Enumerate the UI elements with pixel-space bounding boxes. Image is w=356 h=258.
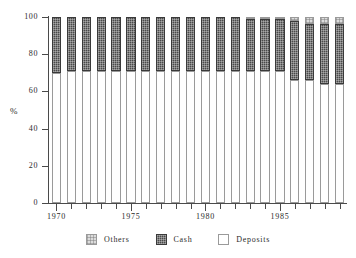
bar-1977 bbox=[156, 17, 165, 203]
segment-cash bbox=[201, 17, 210, 71]
segment-deposits bbox=[52, 73, 61, 203]
x-tick-1973 bbox=[101, 204, 102, 209]
chart-legend: OthersCashDeposits bbox=[0, 230, 356, 248]
segment-deposits bbox=[216, 71, 225, 203]
y-tick-80 bbox=[42, 54, 48, 55]
segment-cash bbox=[246, 19, 255, 71]
segment-cash bbox=[260, 19, 269, 71]
segment-deposits bbox=[82, 71, 91, 203]
y-tick-label-100: 100 bbox=[24, 13, 38, 21]
segment-deposits bbox=[305, 80, 314, 203]
y-tick-40 bbox=[42, 129, 48, 130]
others-swatch bbox=[86, 234, 97, 245]
y-tick-20 bbox=[42, 166, 48, 167]
x-tick-1976 bbox=[146, 204, 147, 209]
bar-1973 bbox=[97, 17, 106, 203]
deposits-swatch bbox=[218, 234, 229, 245]
y-tick-label-20: 20 bbox=[29, 162, 38, 170]
segment-others bbox=[335, 17, 344, 24]
segment-deposits bbox=[141, 71, 150, 203]
bar-1981 bbox=[216, 17, 225, 203]
x-major-tick-1975 bbox=[131, 204, 132, 211]
segment-cash bbox=[52, 17, 61, 73]
y-tick-60 bbox=[42, 91, 48, 92]
bar-1982 bbox=[231, 17, 240, 203]
segment-deposits bbox=[260, 71, 269, 203]
x-tick-1987 bbox=[310, 204, 311, 209]
segment-cash bbox=[335, 24, 344, 84]
x-tick-1981 bbox=[220, 204, 221, 209]
segment-cash bbox=[126, 17, 135, 71]
segment-cash bbox=[275, 19, 284, 71]
bar-1979 bbox=[186, 17, 195, 203]
bar-1980 bbox=[201, 17, 210, 203]
x-tick-1979 bbox=[191, 204, 192, 209]
x-major-tick-1980 bbox=[205, 204, 206, 211]
legend-item-deposits[interactable]: Deposits bbox=[218, 234, 270, 245]
segment-deposits bbox=[186, 71, 195, 203]
y-tick-label-80: 80 bbox=[29, 50, 38, 58]
segment-others bbox=[275, 17, 284, 19]
segment-deposits bbox=[97, 71, 106, 203]
x-tick-1982 bbox=[235, 204, 236, 209]
x-tick-1972 bbox=[86, 204, 87, 209]
segment-others bbox=[320, 17, 329, 24]
segment-cash bbox=[186, 17, 195, 71]
x-major-tick-1985 bbox=[280, 204, 281, 211]
segment-deposits bbox=[201, 71, 210, 203]
segment-deposits bbox=[111, 71, 120, 203]
x-major-tick-1970 bbox=[56, 204, 57, 211]
y-tick-label-60: 60 bbox=[29, 87, 38, 95]
x-tick-1983 bbox=[250, 204, 251, 209]
y-tick-label-0: 0 bbox=[33, 199, 38, 207]
x-tick-label-1975: 1975 bbox=[122, 212, 141, 221]
segment-cash bbox=[97, 17, 106, 71]
y-tick-100 bbox=[42, 17, 48, 18]
plot-area bbox=[49, 17, 347, 203]
x-tick-1984 bbox=[265, 204, 266, 209]
bar-1988 bbox=[320, 17, 329, 203]
x-tick-1978 bbox=[176, 204, 177, 209]
bar-1970 bbox=[52, 17, 61, 203]
segment-others bbox=[305, 17, 314, 24]
segment-cash bbox=[82, 17, 91, 71]
segment-deposits bbox=[156, 71, 165, 203]
segment-others bbox=[260, 17, 269, 19]
legend-item-others[interactable]: Others bbox=[86, 234, 130, 245]
bar-1984 bbox=[260, 17, 269, 203]
x-tick-1971 bbox=[71, 204, 72, 209]
cash-swatch bbox=[156, 234, 167, 245]
segment-cash bbox=[67, 17, 76, 71]
x-tick-1977 bbox=[161, 204, 162, 209]
y-tick-0 bbox=[42, 203, 48, 204]
bar-1976 bbox=[141, 17, 150, 203]
segment-deposits bbox=[246, 71, 255, 203]
segment-deposits bbox=[290, 80, 299, 203]
segment-cash bbox=[156, 17, 165, 71]
bar-1978 bbox=[171, 17, 180, 203]
y-tick-label-40: 40 bbox=[29, 125, 38, 133]
segment-cash bbox=[290, 21, 299, 81]
segment-deposits bbox=[171, 71, 180, 203]
segment-deposits bbox=[67, 71, 76, 203]
bar-1985 bbox=[275, 17, 284, 203]
x-tick-1986 bbox=[295, 204, 296, 209]
segment-deposits bbox=[275, 71, 284, 203]
x-tick-1974 bbox=[116, 204, 117, 209]
legend-item-cash[interactable]: Cash bbox=[156, 234, 193, 245]
bar-1974 bbox=[111, 17, 120, 203]
legend-label-cash: Cash bbox=[174, 235, 193, 244]
segment-deposits bbox=[320, 84, 329, 203]
bar-1987 bbox=[305, 17, 314, 203]
legend-label-deposits: Deposits bbox=[236, 235, 270, 244]
stacked-bar-chart: % 020406080100 1970197519801985 OthersCa… bbox=[0, 0, 356, 258]
y-axis-title: % bbox=[10, 106, 18, 116]
segment-cash bbox=[111, 17, 120, 71]
bar-1971 bbox=[67, 17, 76, 203]
legend-label-others: Others bbox=[104, 235, 130, 244]
x-tick-label-1985: 1985 bbox=[271, 212, 290, 221]
segment-deposits bbox=[231, 71, 240, 203]
segment-others bbox=[290, 17, 299, 21]
x-tick-1989 bbox=[340, 204, 341, 209]
segment-cash bbox=[320, 24, 329, 84]
